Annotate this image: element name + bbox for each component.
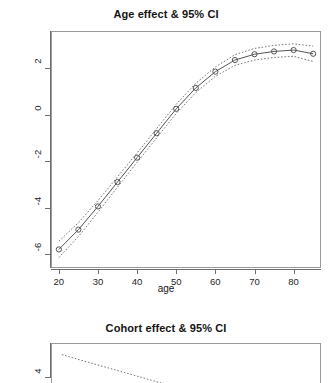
age-x-tick bbox=[137, 269, 138, 274]
age-effect-panel: Age effect & 95% CI 20304050607080 20-2-… bbox=[0, 0, 332, 300]
age-y-tick-label: -6 bbox=[32, 243, 43, 251]
age-y-tick bbox=[45, 254, 50, 255]
cohort-y-tick bbox=[45, 377, 50, 378]
age-y-tick-label: 0 bbox=[32, 105, 43, 110]
age-x-tick bbox=[255, 269, 256, 274]
age-y-axis-line bbox=[50, 31, 51, 268]
age-y-tick bbox=[45, 115, 50, 116]
age-x-tick bbox=[215, 269, 216, 274]
age-x-tick bbox=[98, 269, 99, 274]
age-series-line bbox=[59, 44, 313, 242]
age-x-axis-line bbox=[51, 269, 321, 270]
age-x-tick bbox=[59, 269, 60, 274]
cohort-y-tick-label: 4 bbox=[32, 368, 43, 373]
cohort-y-axis-line bbox=[50, 343, 51, 378]
cohort-effect-panel: Cohort effect & 95% CI 4 bbox=[0, 300, 332, 378]
age-series-line bbox=[59, 56, 313, 257]
age-y-tick bbox=[45, 208, 50, 209]
age-y-tick-label: -4 bbox=[32, 196, 43, 204]
age-x-tick bbox=[294, 269, 295, 274]
age-x-axis-title: age bbox=[0, 283, 332, 294]
age-y-tick-label: -2 bbox=[32, 150, 43, 158]
age-y-tick-label: 2 bbox=[32, 59, 43, 64]
age-y-tick bbox=[45, 161, 50, 162]
age-y-tick bbox=[45, 68, 50, 69]
age-series-line bbox=[59, 50, 313, 249]
age-x-tick bbox=[176, 269, 177, 274]
